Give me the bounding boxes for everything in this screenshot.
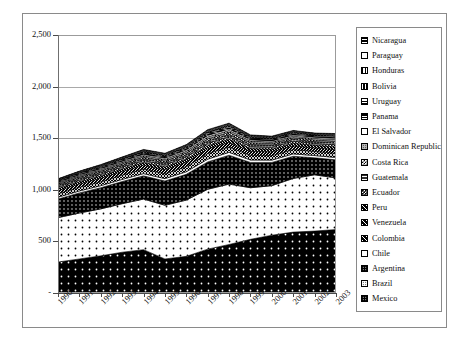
legend-item[interactable]: El Salvador	[361, 124, 438, 139]
y-axis-tick-label: 2,500	[6, 30, 51, 39]
y-axis-tick-label: 500	[6, 236, 51, 245]
legend-item[interactable]: Venezuela	[361, 215, 438, 230]
legend-swatch-icon	[361, 37, 368, 44]
legend-swatch-icon	[361, 159, 368, 166]
legend-item[interactable]: Panama	[361, 109, 438, 124]
legend-item-label: Chile	[372, 249, 390, 258]
legend-item-label: Argentina	[372, 264, 405, 273]
legend-item-label: Honduras	[372, 66, 404, 75]
legend-item-label: Dominican Republic	[372, 142, 441, 151]
legend-item[interactable]: Colombia	[361, 230, 438, 245]
legend-item[interactable]: Guatemala	[361, 170, 438, 185]
legend-swatch-icon	[361, 143, 368, 150]
chart-legend: NicaraguaParaguayHondurasBoliviaUruguayP…	[356, 27, 442, 312]
y-axis-tick-label: 1,000	[6, 185, 51, 194]
legend-swatch-icon	[361, 265, 368, 272]
legend-swatch-icon	[361, 113, 368, 120]
legend-swatch-icon	[361, 250, 368, 257]
legend-swatch-icon	[361, 219, 368, 226]
legend-item-label: Brazil	[372, 279, 392, 288]
legend-swatch-icon	[361, 174, 368, 181]
legend-swatch-icon	[361, 52, 368, 59]
legend-item-label: Uruguay	[372, 97, 401, 106]
plot-area	[58, 35, 336, 293]
legend-item[interactable]: Honduras	[361, 63, 438, 78]
legend-swatch-icon	[361, 83, 368, 90]
area-series-group	[58, 35, 336, 293]
legend-swatch-icon	[361, 204, 368, 211]
legend-item-label: Costa Rica	[372, 158, 408, 167]
legend-item-label: Panama	[372, 112, 398, 121]
legend-item[interactable]: Brazil	[361, 276, 438, 291]
legend-item-label: Bolivia	[372, 82, 396, 91]
y-axis-line	[58, 35, 59, 294]
legend-item[interactable]: Ecuador	[361, 185, 438, 200]
legend-swatch-icon	[361, 295, 368, 302]
legend-swatch-icon	[361, 128, 368, 135]
legend-swatch-icon	[361, 67, 368, 74]
legend-item[interactable]: Peru	[361, 200, 438, 215]
legend-item-label: El Salvador	[372, 127, 411, 136]
legend-swatch-icon	[361, 280, 368, 287]
legend-item[interactable]: Uruguay	[361, 94, 438, 109]
legend-item[interactable]: Mexico	[361, 291, 438, 306]
legend-item-label: Peru	[372, 203, 387, 212]
legend-item-label: Ecuador	[372, 188, 400, 197]
legend-item-label: Mexico	[372, 294, 397, 303]
legend-item[interactable]: Argentina	[361, 261, 438, 276]
legend-item-label: Colombia	[372, 234, 405, 243]
y-axis-tick-label: 2,000	[6, 82, 51, 91]
stacked-area-chart: 2,5002,0001,5001,000500- 199019911992199…	[0, 0, 469, 348]
y-axis-tick-label: -	[6, 288, 51, 297]
legend-item[interactable]: Paraguay	[361, 48, 438, 63]
y-axis-tick-label: 1,500	[6, 133, 51, 142]
legend-item[interactable]: Chile	[361, 246, 438, 261]
legend-item-label: Venezuela	[372, 218, 406, 227]
legend-item-label: Guatemala	[372, 173, 408, 182]
legend-item[interactable]: Bolivia	[361, 79, 438, 94]
legend-item[interactable]: Costa Rica	[361, 155, 438, 170]
legend-item-label: Paraguay	[372, 51, 403, 60]
legend-swatch-icon	[361, 235, 368, 242]
legend-item[interactable]: Dominican Republic	[361, 139, 438, 154]
legend-item-label: Nicaragua	[372, 36, 406, 45]
legend-swatch-icon	[361, 189, 368, 196]
legend-swatch-icon	[361, 98, 368, 105]
legend-item[interactable]: Nicaragua	[361, 33, 438, 48]
